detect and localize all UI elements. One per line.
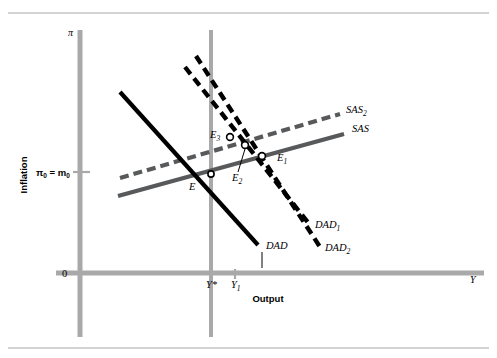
- point-label-e2-sub: 2: [238, 177, 242, 186]
- marker-point-e1: [259, 153, 266, 160]
- marker-point-e2: [242, 142, 249, 149]
- curve-label-dad2: DAD2: [324, 242, 351, 256]
- y-axis-title: Inflation: [18, 156, 29, 193]
- x-tick-y1-sub: 1: [237, 284, 241, 293]
- point-label-e-text: E: [188, 181, 196, 192]
- curve-label-sas-text: SAS: [352, 123, 370, 134]
- curve-label-dad1: DAD1: [314, 219, 340, 233]
- point-label-e1-sub: 1: [283, 157, 287, 166]
- y-tick-m: m: [58, 167, 66, 178]
- marker-point-e: [208, 171, 214, 177]
- curve-label-sas2: SAS2: [346, 104, 367, 118]
- point-label-e: E: [188, 181, 196, 192]
- curve-label-dad-text: DAD: [265, 240, 288, 251]
- y-axis-symbol: π: [68, 27, 74, 38]
- x-tick-label-y1: Y1: [231, 279, 241, 293]
- y-tick-equals: =: [47, 167, 58, 178]
- point-label-e2: E2: [231, 172, 242, 186]
- plot-svg: SAS2 SAS DAD1 DAD DAD2 E E1 E2 E3 π Y: [0, 0, 497, 358]
- y-tick-label-inflation: π0 = m0: [36, 167, 70, 179]
- y-tick-m-sub: 0: [66, 172, 70, 179]
- origin-label: 0: [62, 268, 67, 279]
- curve-label-dad1-sub: 1: [337, 224, 341, 233]
- figure-dad-sas-diagram: SAS2 SAS DAD1 DAD DAD2 E E1 E2 E3 π Y: [0, 0, 497, 358]
- point-label-e1: E1: [276, 152, 287, 166]
- x-axis-symbol: Y: [470, 274, 477, 285]
- curve-label-sas: SAS: [352, 123, 370, 134]
- x-tick-label-potential-output: Y*: [206, 279, 218, 290]
- x-axis-title: Output: [252, 293, 284, 304]
- curve-dad: [120, 92, 258, 245]
- curve-label-dad2-sub: 2: [347, 247, 351, 256]
- curve-label-sas2-sub: 2: [363, 109, 367, 118]
- marker-point-e3: [227, 134, 234, 141]
- curve-label-dad1-text: DAD: [314, 219, 337, 230]
- curve-label-sas2-text: SAS: [346, 104, 364, 115]
- curve-sas: [118, 134, 344, 196]
- curve-label-dad: DAD: [265, 240, 288, 251]
- curve-label-dad2-text: DAD: [324, 242, 347, 253]
- point-label-e3-sub: 3: [215, 134, 220, 143]
